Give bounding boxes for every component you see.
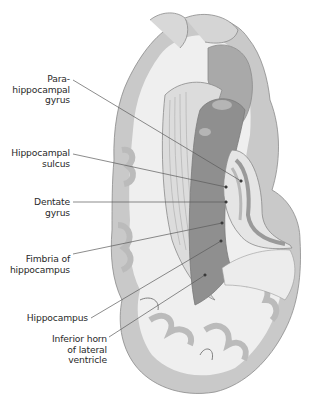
label-line: gyrus [12, 95, 70, 106]
label-line: Hippocampal [11, 148, 70, 159]
label-line: Dentate [34, 197, 70, 208]
label-inferior-horn-of-lateral-ventricle: Inferior horn of lateral ventricle [52, 334, 107, 366]
label-line: ventricle [52, 355, 107, 366]
label-hippocampal-sulcus: Hippocampal sulcus [11, 148, 70, 169]
label-dentate-gyrus: Dentate gyrus [34, 197, 70, 218]
label-line: sulcus [11, 159, 70, 170]
label-hippocampus: Hippocampus [27, 313, 88, 324]
label-fimbria-of-hippocampus: Fimbria of hippocampus [10, 254, 70, 275]
label-line: Inferior horn [52, 334, 107, 345]
label-line: gyrus [34, 208, 70, 219]
label-line: hippocampus [10, 265, 70, 276]
label-line: Hippocampus [27, 313, 88, 324]
label-line: Fimbria of [10, 254, 70, 265]
label-line: Para- [12, 74, 70, 85]
label-parahippocampal-gyrus: Para- hippocampal gyrus [12, 74, 70, 106]
